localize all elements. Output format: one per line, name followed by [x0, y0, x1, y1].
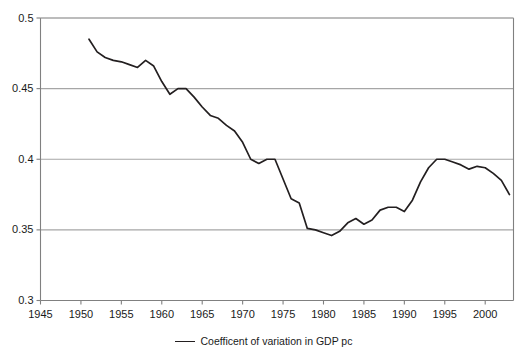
y-axis-tick-label: 0.35: [12, 224, 33, 235]
y-axis-tick-label: 0.4: [18, 154, 33, 165]
x-axis-ticks: [41, 301, 486, 305]
gridlines: [41, 18, 514, 230]
chart-container: 0.30.350.40.450.5 1945195019551960196519…: [0, 0, 527, 358]
chart-legend: Coefficent of variation in GDP pc: [0, 335, 527, 347]
line-chart-plot: [0, 0, 527, 358]
y-axis-tick-label: 0.5: [18, 13, 33, 24]
y-axis-ticks: [37, 18, 41, 301]
x-axis-tick-label: 2000: [460, 309, 510, 320]
y-axis-tick-label: 0.45: [12, 83, 33, 94]
y-axis-tick-label: 0.3: [18, 295, 33, 306]
legend-line-swatch: [175, 341, 195, 342]
legend-label: Coefficent of variation in GDP pc: [201, 335, 353, 347]
data-series: [89, 39, 509, 235]
